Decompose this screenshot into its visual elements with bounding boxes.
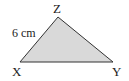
vertex-label-y: Y — [112, 64, 122, 79]
vertex-label-z: Z — [53, 1, 61, 16]
side-label-xz: 6 cm — [12, 26, 36, 40]
vertex-label-x: X — [12, 64, 22, 79]
triangle-diagram: Z X Y 6 cm — [0, 0, 129, 81]
